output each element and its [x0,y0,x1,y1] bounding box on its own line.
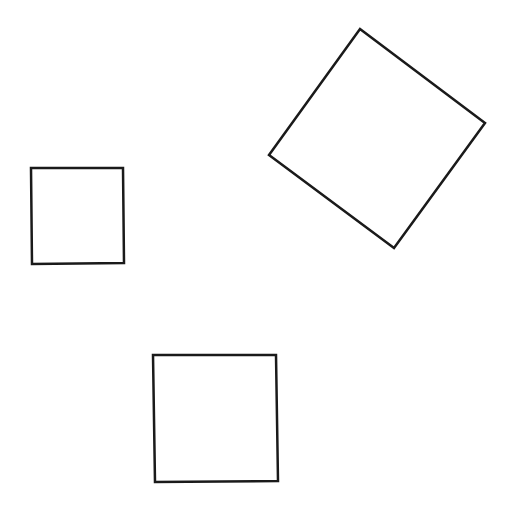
background [0,0,515,510]
diagram-canvas [0,0,515,510]
